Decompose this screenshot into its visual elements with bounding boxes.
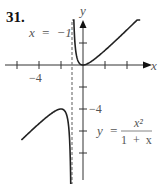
y-axis-label: y — [78, 3, 86, 18]
graph: 31. x = −1 y x −4 −4 y = x² 1 + x — [0, 0, 158, 184]
problem-number: 31. — [6, 9, 25, 25]
equation-lhs: y = — [95, 123, 118, 138]
equation-numerator: x² — [133, 116, 143, 130]
y-tick-label-neg4: −4 — [89, 102, 102, 116]
equation-label: y = x² 1 + x — [95, 116, 152, 147]
x-axis-label: x — [150, 58, 157, 73]
equation-denominator: 1 + x — [121, 133, 152, 147]
x-tick-label-neg4: −4 — [29, 71, 42, 85]
curve-left-branch — [21, 109, 71, 184]
y-axis-arrow-icon — [80, 20, 87, 28]
asymptote-label: x = −1 — [28, 25, 72, 40]
